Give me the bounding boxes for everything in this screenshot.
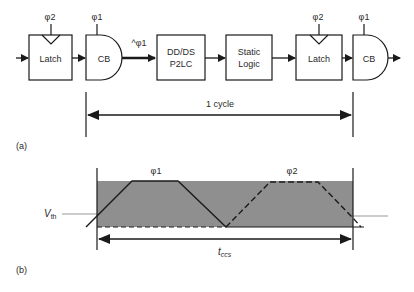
cycle-label: 1 cycle xyxy=(206,99,234,109)
p2lc-label-line1: DD/DS xyxy=(167,47,195,57)
latch-2-label: Latch xyxy=(308,54,330,64)
latch-1-block: Latch φ2 xyxy=(29,12,72,80)
latch-1-clock-text: φ2 xyxy=(45,12,56,22)
phi1-label: φ1 xyxy=(151,166,162,176)
figure-b: φ1 φ2 Vth tccs (b) xyxy=(16,166,388,275)
latch-2-block: Latch φ2 xyxy=(296,12,342,80)
static-logic-label-line2: Logic xyxy=(238,59,260,69)
static-logic-block: Static Logic xyxy=(226,35,272,80)
latch-1-label: Latch xyxy=(39,54,61,64)
static-logic-label-line1: Static xyxy=(238,47,261,57)
cb-2-block: CB φ1 xyxy=(353,12,388,80)
cb-2-label: CB xyxy=(363,54,376,64)
vth-label: Vth xyxy=(44,208,57,220)
p2lc-label-line2: P2LC xyxy=(170,59,193,69)
cb-1-label: CB xyxy=(98,54,111,64)
phi2-label: φ2 xyxy=(287,166,298,176)
figure-b-label: (b) xyxy=(16,265,27,275)
figure-a: Latch φ2 CB φ1 ^φ1 DD/DS P2LC Static Log… xyxy=(16,12,400,151)
cb-2-clock: φ1 xyxy=(359,12,370,22)
figure-a-label: (a) xyxy=(16,141,27,151)
gated-clock-label: ^φ1 xyxy=(131,38,146,48)
shaded-evaluation-region xyxy=(97,181,353,227)
cb-1-clock: φ1 xyxy=(92,12,103,22)
timing-diagram: Latch φ2 CB φ1 ^φ1 DD/DS P2LC Static Log… xyxy=(0,0,414,292)
latch-2-clock: φ2 xyxy=(313,12,324,22)
vth-label-sub: th xyxy=(51,213,57,220)
tccs-label-sub: ccs xyxy=(221,251,232,258)
cb-1-block: CB φ1 xyxy=(86,12,122,80)
p2lc-block: DD/DS P2LC xyxy=(157,35,205,80)
latch-1-clock: φ2 xyxy=(45,12,56,22)
tccs-label: tccs xyxy=(218,246,232,258)
